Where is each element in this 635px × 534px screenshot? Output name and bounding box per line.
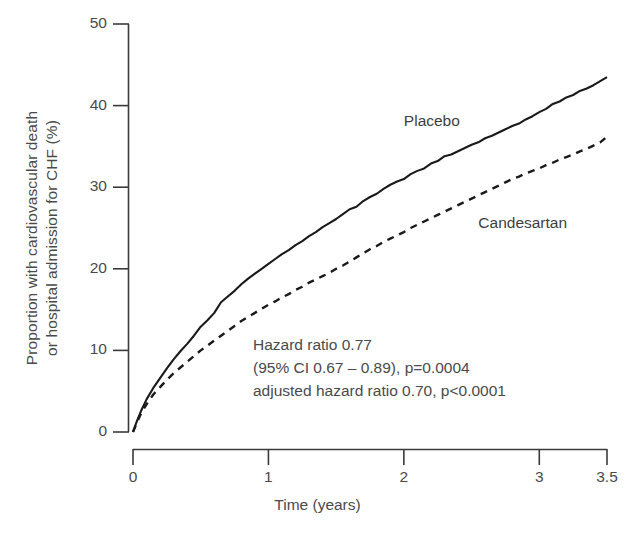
y-tick-label: 50 xyxy=(67,14,107,32)
y-tick-label: 40 xyxy=(67,96,107,114)
y-axis-label-line-2: or hospital admission for CHF (%) xyxy=(42,120,62,356)
statistics-annotation: Hazard ratio 0.77(95% CI 0.67 – 0.89), p… xyxy=(253,334,506,402)
y-axis-label-line-1: Proportion with cardiovascular death xyxy=(22,111,42,365)
x-tick-label: 1 xyxy=(248,468,288,486)
x-tick-marks xyxy=(133,449,607,465)
y-tick-label: 20 xyxy=(67,259,107,277)
y-tick-label: 30 xyxy=(67,177,107,195)
y-tick-marks xyxy=(113,24,129,432)
series-label-placebo: Placebo xyxy=(404,112,460,130)
annotation-line-1: Hazard ratio 0.77 xyxy=(253,334,506,357)
y-tick-label: 10 xyxy=(67,340,107,358)
y-tick-label: 0 xyxy=(67,422,107,440)
series-label-candesartan: Candesartan xyxy=(478,214,567,232)
x-tick-label: 3 xyxy=(519,468,559,486)
annotation-line-3: adjusted hazard ratio 0.70, p<0.0001 xyxy=(253,380,506,403)
y-axis-label: Proportion with cardiovascular death or … xyxy=(20,28,64,448)
chart-figure: Proportion with cardiovascular death or … xyxy=(0,0,635,534)
x-axis-label: Time (years) xyxy=(0,496,635,514)
annotation-line-2: (95% CI 0.67 – 0.89), p=0.0004 xyxy=(253,357,506,380)
x-tick-label: 0 xyxy=(113,468,153,486)
x-tick-label: 2 xyxy=(384,468,424,486)
x-tick-label: 3.5 xyxy=(587,468,627,486)
